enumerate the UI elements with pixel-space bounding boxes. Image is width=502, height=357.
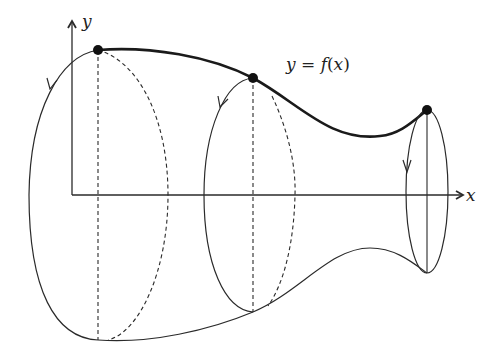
generating-curve: [98, 49, 427, 136]
solid-of-revolution-diagram: y x y = f(x): [0, 0, 502, 357]
curve-label-x: x: [334, 54, 344, 74]
right-cross-section: [403, 110, 448, 273]
curve-point-2: [248, 73, 258, 83]
curve-point-1: [93, 45, 103, 55]
curve-label: y = f(x): [285, 54, 350, 74]
curve-point-3: [422, 105, 432, 115]
curve-label-eq: =: [296, 54, 321, 74]
y-axis-label: y: [81, 11, 92, 31]
curve-label-y: y: [285, 54, 296, 74]
left-section-down-arrow-icon: [47, 78, 57, 89]
curve-label-close-paren: ): [343, 54, 350, 74]
lower-surface-curve: [98, 248, 427, 341]
curve-label-open-paren: (: [327, 54, 334, 74]
axes: y x: [72, 11, 476, 205]
x-axis-label: x: [466, 185, 476, 205]
middle-section-back-arc: [268, 96, 295, 306]
